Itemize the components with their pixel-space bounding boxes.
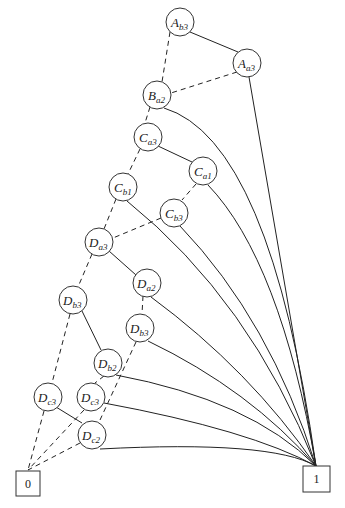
edge-high: [82, 311, 101, 350]
node-C-a3: Ca3: [134, 123, 162, 151]
node-D-a3: Da3: [85, 228, 113, 256]
edge-high: [164, 108, 316, 466]
edge-high: [104, 403, 316, 466]
node-C-a1: Ca1: [189, 157, 217, 185]
edge-high: [208, 185, 316, 466]
edge-low: [78, 254, 92, 287]
terminal-0: 0: [16, 471, 40, 496]
node-D-c3: Dc3: [34, 383, 62, 411]
edge-high: [100, 447, 316, 466]
svg-text:0: 0: [25, 477, 31, 491]
edge-high: [158, 146, 192, 162]
node-D-a2: Da2: [133, 269, 161, 297]
edge-low: [171, 72, 237, 93]
edge-high: [148, 341, 316, 466]
terminal-1: 1: [303, 466, 330, 492]
edge-high: [190, 32, 238, 52]
nodes: Ab3 Aa3 Ba2 Ca3 Ca1 Cb1 Cb3 Da3 Da2 Db3 …: [34, 8, 261, 449]
edge-high: [249, 77, 316, 466]
edge-high: [56, 407, 82, 423]
node-D-c2: Dc2: [78, 421, 106, 449]
edges: [28, 32, 316, 470]
edge-high: [127, 201, 316, 466]
edge-low: [182, 184, 196, 200]
edge-low: [104, 199, 116, 229]
edge-low: [162, 32, 170, 82]
edge-low: [128, 149, 140, 174]
edge-low: [145, 107, 150, 123]
bdd-diagram: Ab3 Aa3 Ba2 Ca3 Ca1 Cb1 Cb3 Da3 Da2 Db3 …: [0, 0, 345, 508]
edge-low: [142, 296, 143, 314]
node-D-c3-2: Dc3: [77, 383, 105, 411]
node-B-a2: Ba2: [143, 81, 171, 109]
node-D-b3: Db3: [59, 286, 87, 314]
node-D-b2: Db2: [94, 349, 122, 377]
node-A-a3: Aa3: [233, 49, 261, 77]
node-C-b1: Cb1: [109, 173, 137, 201]
svg-text:1: 1: [314, 472, 320, 486]
edge-high: [109, 251, 136, 275]
edge-high: [116, 375, 316, 466]
edge-low: [95, 376, 104, 383]
node-D-b3-2: Db3: [126, 314, 154, 342]
terminals: 0 1: [16, 466, 330, 496]
node-C-b3: Cb3: [160, 199, 188, 227]
edge-low: [52, 314, 70, 383]
node-A-b3: Ab3: [166, 8, 194, 36]
edge-low: [28, 411, 44, 470]
edge-low: [113, 218, 161, 238]
edge-low: [28, 443, 80, 470]
